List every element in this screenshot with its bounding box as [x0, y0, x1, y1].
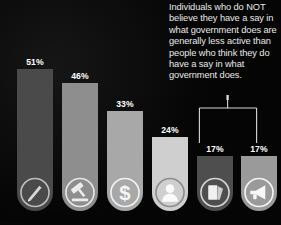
ballot-icon — [200, 177, 231, 208]
svg-text:$: $ — [119, 182, 131, 204]
bar-value-label: 33% — [116, 99, 134, 109]
bar-group-vote-ballot: 17% — [197, 156, 233, 211]
dollar-icon: $ — [110, 177, 141, 208]
bar-value-label: 24% — [161, 125, 179, 135]
infographic-root: Individuals who do NOT believe they have… — [0, 0, 281, 225]
gavel-icon — [65, 177, 96, 208]
person-icon — [155, 177, 186, 208]
bar-group-contact-official: 46% — [62, 83, 98, 211]
bar-group-sign-a-petition: 51% — [17, 69, 53, 211]
pen-icon — [20, 177, 51, 208]
bar-group-attend-meeting: 24% — [152, 137, 188, 211]
bar-group-protest-speak-out: 17% — [241, 156, 277, 211]
credit-text: ....... .... — [2, 219, 24, 225]
bracket-annotation — [198, 95, 258, 145]
bar-value-label: 46% — [71, 71, 89, 81]
bar-group-donate-money: 33% $ — [107, 111, 143, 211]
bar-value-label: 17% — [206, 144, 224, 154]
bar-value-label: 51% — [26, 57, 44, 67]
megaphone-icon — [244, 177, 275, 208]
bar-value-label: 17% — [250, 144, 268, 154]
bar-chart: 51% 46% — [0, 0, 281, 225]
